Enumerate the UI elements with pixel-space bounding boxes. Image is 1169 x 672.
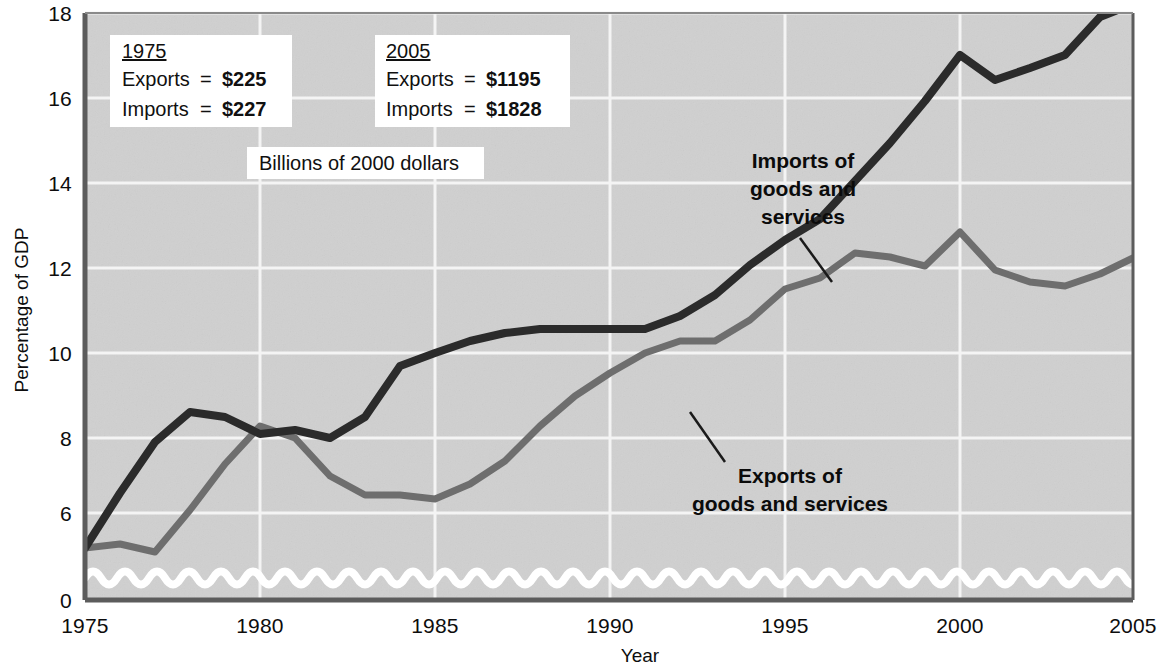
annotation-2005-exports-label: Exports	[386, 68, 454, 90]
annotation-2005-imports-value: $1828	[486, 98, 542, 120]
annotation-2005-heading: 2005	[386, 40, 431, 62]
y-tick-8: 8	[60, 427, 72, 450]
imports-callout-line-1: Imports of	[752, 149, 856, 172]
annotation-2005-imports-label: Imports	[386, 98, 453, 120]
annotation-1975-imports-label: Imports	[122, 98, 189, 120]
x-tick-1990: 1990	[586, 614, 634, 637]
y-tick-14: 14	[48, 172, 72, 195]
x-tick-1980: 1980	[236, 614, 284, 637]
annotation-1975-imports-value: $227	[222, 98, 267, 120]
annotation-units-note: Billions of 2000 dollars	[247, 147, 484, 179]
annotation-1975-box: 1975 Exports = $225 Imports = $227	[110, 35, 292, 127]
annotation-1975-exports-eq: =	[200, 68, 212, 90]
imports-callout-line-3: services	[761, 205, 845, 228]
annotation-2005-exports-eq: =	[464, 68, 476, 90]
annotation-1975-heading: 1975	[122, 40, 167, 62]
y-tick-0: 0	[60, 589, 72, 612]
x-tick-1985: 1985	[411, 614, 459, 637]
y-tick-6: 6	[60, 502, 72, 525]
x-tick-1995: 1995	[761, 614, 809, 637]
annotation-1975-exports-value: $225	[222, 68, 267, 90]
exports-callout-line-2: goods and services	[692, 492, 888, 515]
chart-container: 18 16 14 12 10 8 6 0 1975 1980 1985 1990…	[0, 0, 1169, 672]
annotation-2005-box: 2005 Exports = $1195 Imports = $1828	[375, 35, 570, 127]
y-tick-16: 16	[48, 87, 72, 110]
annotation-2005-exports-value: $1195	[486, 68, 541, 90]
x-tick-2005: 2005	[1109, 614, 1157, 637]
x-tick-1975: 1975	[61, 614, 109, 637]
y-tick-18: 18	[48, 2, 72, 25]
annotation-1975-exports-label: Exports	[122, 68, 190, 90]
units-note-text: Billions of 2000 dollars	[259, 152, 459, 174]
imports-callout-line-2: goods and	[750, 177, 856, 200]
y-tick-10: 10	[48, 342, 72, 365]
x-tick-2000: 2000	[936, 614, 984, 637]
x-axis-title: Year	[621, 645, 660, 666]
exports-callout-line-1: Exports of	[738, 464, 843, 487]
annotation-1975-imports-eq: =	[200, 98, 212, 120]
y-axis-title: Percentage of GDP	[11, 228, 32, 393]
y-tick-12: 12	[48, 257, 72, 280]
axis-break-wave	[85, 572, 1141, 585]
economics-line-chart: 18 16 14 12 10 8 6 0 1975 1980 1985 1990…	[0, 0, 1169, 672]
annotation-2005-imports-eq: =	[464, 98, 476, 120]
